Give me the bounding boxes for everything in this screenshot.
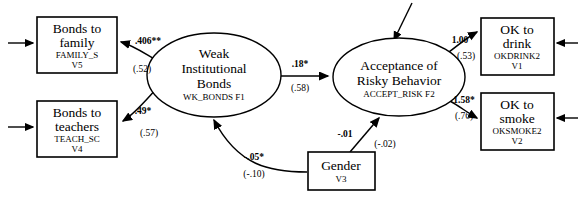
ok-smoke-title-line2: smoke bbox=[499, 111, 534, 126]
ok-drink-title-line1: OK to bbox=[500, 22, 534, 37]
label-gender-to-f2-std: (-.02) bbox=[374, 139, 395, 150]
weak-bonds-variable: WK_BONDS F1 bbox=[183, 92, 245, 102]
node-acceptance-risky-behavior[interactable]: Acceptance of Risky Behavior ACCEPT_RISK… bbox=[333, 38, 465, 116]
bonds-teachers-title-line1: Bonds to bbox=[53, 105, 102, 120]
label-f1-to-family-std: (.52) bbox=[133, 64, 151, 75]
ok-drink-variable: OKDRINK2 bbox=[494, 51, 540, 61]
gender-title: Gender bbox=[321, 158, 361, 173]
accept-risk-variable: ACCEPT_RISK F2 bbox=[363, 89, 434, 99]
gender-code: V3 bbox=[336, 174, 347, 184]
bonds-family-variable: FAMILY_S bbox=[56, 50, 98, 60]
node-gender[interactable]: Gender V3 bbox=[308, 152, 375, 190]
label-f1-to-f2-coef: .18* bbox=[292, 59, 309, 69]
diagram-canvas: Bonds to family FAMILY_S V5 Bonds to tea… bbox=[0, 0, 582, 199]
label-f1-to-family-coef: .406** bbox=[135, 36, 161, 46]
label-f2-to-drink-std: (.53) bbox=[457, 51, 475, 62]
accept-risk-title-line2: Risky Behavior bbox=[357, 73, 442, 88]
label-f1-to-f2-std: (.58) bbox=[291, 83, 309, 94]
bonds-family-code: V5 bbox=[72, 60, 83, 70]
label-gender-to-f1-coef: -.05* bbox=[244, 152, 264, 162]
node-ok-drink[interactable]: OK to drink OKDRINK2 V1 bbox=[481, 18, 554, 75]
ok-smoke-variable: OKSMOKE2 bbox=[492, 126, 541, 136]
node-weak-institutional-bonds[interactable]: Weak Institutional Bonds WK_BONDS F1 bbox=[147, 33, 281, 117]
accept-risk-title-line1: Acceptance of bbox=[360, 58, 438, 73]
weak-bonds-title-line2: Institutional bbox=[181, 61, 246, 76]
path-gender-to-f1 bbox=[214, 120, 307, 172]
ok-smoke-code: V2 bbox=[512, 136, 523, 146]
weak-bonds-title-line3: Bonds bbox=[197, 76, 232, 91]
bonds-teachers-code: V4 bbox=[72, 144, 83, 154]
bonds-teachers-variable: TEACH_SC bbox=[54, 134, 100, 144]
label-f1-to-teachers-std: (.57) bbox=[140, 128, 158, 139]
label-gender-to-f2-coef: -.01 bbox=[337, 129, 352, 139]
bonds-teachers-title-line2: teachers bbox=[55, 119, 99, 134]
label-f2-to-smoke-coef: 1.58* bbox=[453, 95, 475, 105]
label-f2-to-smoke-std: (.76) bbox=[455, 111, 473, 122]
ok-drink-title-line2: drink bbox=[503, 36, 532, 51]
node-bonds-family[interactable]: Bonds to family FAMILY_S V5 bbox=[37, 17, 117, 73]
sem-path-diagram: Bonds to family FAMILY_S V5 Bonds to tea… bbox=[0, 0, 582, 199]
label-f1-to-teachers-coef: .49* bbox=[135, 106, 152, 116]
weak-bonds-title-line1: Weak bbox=[199, 46, 230, 61]
ok-smoke-title-line1: OK to bbox=[500, 97, 534, 112]
ok-drink-code: V1 bbox=[512, 61, 523, 71]
label-gender-to-f1-std: (-.10) bbox=[243, 169, 264, 180]
node-bonds-teachers[interactable]: Bonds to teachers TEACH_SC V4 bbox=[37, 101, 117, 157]
node-ok-smoke[interactable]: OK to smoke OKSMOKE2 V2 bbox=[481, 93, 554, 150]
label-f2-to-drink-coef: 1.00 bbox=[452, 35, 469, 45]
bonds-family-title-line2: family bbox=[59, 35, 94, 50]
disturbance-into-accept-risk bbox=[394, 3, 412, 40]
bonds-family-title-line1: Bonds to bbox=[53, 21, 102, 36]
